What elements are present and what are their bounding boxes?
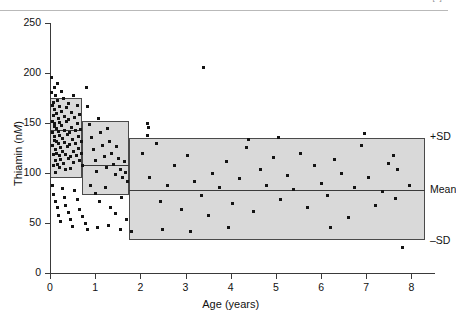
- data-point: [69, 218, 72, 221]
- plot-area: 050100150200250012345678: [0, 11, 448, 311]
- data-point: [52, 101, 55, 104]
- data-point: [52, 164, 55, 167]
- data-point: [53, 122, 56, 125]
- data-point: [73, 189, 76, 192]
- data-point: [50, 76, 53, 79]
- data-point: [92, 148, 95, 151]
- data-point: [186, 154, 189, 157]
- x-tick-label: 3: [171, 281, 201, 293]
- y-tick: [45, 123, 50, 124]
- data-point: [387, 162, 390, 165]
- data-point: [329, 226, 332, 229]
- data-point: [247, 138, 250, 141]
- data-point: [67, 118, 70, 121]
- data-point: [148, 176, 151, 179]
- data-point: [71, 225, 74, 228]
- data-point: [59, 146, 62, 149]
- data-point: [50, 91, 53, 94]
- data-point: [259, 168, 262, 171]
- data-point: [59, 158, 62, 161]
- data-point: [408, 184, 411, 187]
- data-point: [98, 200, 101, 203]
- running-head-title: VITAMIN METABOLISM AND DEFICIENCY: [136, 0, 311, 2]
- data-point: [76, 104, 79, 107]
- data-point: [72, 94, 75, 97]
- data-point: [72, 150, 75, 153]
- data-point: [286, 174, 289, 177]
- data-point: [70, 111, 73, 114]
- data-point: [110, 152, 113, 155]
- data-point: [392, 154, 395, 157]
- x-tick: [95, 274, 96, 279]
- data-point: [54, 171, 57, 174]
- data-point: [363, 132, 366, 135]
- data-point: [69, 155, 72, 158]
- data-point: [114, 173, 117, 176]
- data-point: [65, 106, 68, 109]
- x-tick: [50, 274, 51, 279]
- data-point: [353, 186, 356, 189]
- data-point: [166, 184, 169, 187]
- x-tick: [411, 274, 412, 279]
- data-point: [89, 184, 92, 187]
- data-point: [120, 196, 123, 199]
- data-point: [94, 192, 97, 195]
- data-point: [51, 131, 54, 134]
- data-point: [57, 130, 60, 133]
- data-point: [161, 228, 164, 231]
- data-point: [58, 154, 61, 157]
- data-point: [52, 153, 55, 156]
- data-point: [68, 143, 71, 146]
- y-axis-title: Thiamin (nM): [12, 121, 24, 186]
- data-point: [130, 230, 133, 233]
- data-point: [54, 159, 57, 162]
- data-point: [121, 176, 124, 179]
- data-point: [62, 162, 65, 165]
- data-point: [103, 155, 106, 158]
- data-point: [381, 190, 384, 193]
- data-point: [72, 161, 75, 164]
- data-point: [57, 117, 60, 120]
- data-point: [107, 224, 110, 227]
- data-point: [59, 220, 62, 223]
- plus-sd-label: +SD: [430, 130, 451, 142]
- data-point: [299, 152, 302, 155]
- x-tick-label: 4: [216, 281, 246, 293]
- data-point: [396, 168, 399, 171]
- data-point: [104, 186, 107, 189]
- data-point: [56, 206, 59, 209]
- data-point: [88, 123, 91, 126]
- data-point: [320, 182, 323, 185]
- data-point: [114, 212, 117, 215]
- scatter-figure: 050100150200250012345678 Thiamin (nM) Ag…: [0, 11, 448, 311]
- data-point: [292, 188, 295, 191]
- y-tick: [45, 173, 50, 174]
- data-point: [67, 102, 70, 105]
- y-tick-label: 250: [0, 16, 41, 28]
- data-point: [218, 186, 221, 189]
- data-point: [90, 136, 93, 139]
- data-point: [68, 131, 71, 134]
- data-point: [119, 228, 122, 231]
- x-tick-label: 7: [351, 281, 381, 293]
- data-point: [54, 94, 57, 97]
- data-point: [62, 97, 65, 100]
- x-axis-title: Age (years): [191, 298, 271, 310]
- data-point: [146, 122, 149, 125]
- data-point: [79, 128, 82, 131]
- x-tick-label: 2: [125, 281, 155, 293]
- data-point: [374, 204, 377, 207]
- data-point: [401, 246, 404, 249]
- data-point: [333, 158, 336, 161]
- data-point: [97, 117, 100, 120]
- mean-label: Mean: [430, 183, 456, 195]
- x-tick: [186, 274, 187, 279]
- data-point: [245, 146, 248, 149]
- data-point: [126, 180, 129, 183]
- data-point: [64, 204, 67, 207]
- data-point: [200, 194, 203, 197]
- data-point: [54, 200, 57, 203]
- data-point: [53, 135, 56, 138]
- data-point: [227, 226, 230, 229]
- data-point: [211, 172, 214, 175]
